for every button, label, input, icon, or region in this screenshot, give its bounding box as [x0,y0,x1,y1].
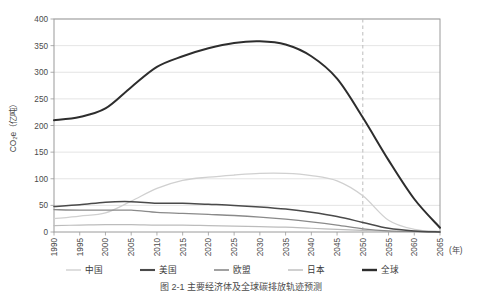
x-tick-label-2040: 2040 [307,238,316,257]
x-tick-label-1990: 1990 [50,238,59,257]
x-tick-label-2065: 2065 [436,238,445,257]
legend-label-2: 欧盟 [233,264,251,275]
legend-label-4: 全球 [381,264,399,275]
x-tick-label-2010: 2010 [153,238,162,257]
y-tick-label-0: 0 [43,228,48,237]
x-tick-label-1995: 1995 [76,238,85,257]
x-tick-label-2045: 2045 [333,238,342,257]
y-tick-label-200: 200 [34,122,48,131]
x-tick-label-2015: 2015 [179,238,188,257]
y-tick-label-150: 150 [34,148,48,157]
legend-label-1: 美国 [159,264,177,275]
y-tick-label-400: 400 [34,15,48,24]
y-tick-label-100: 100 [34,175,48,184]
y-tick-label-50: 50 [39,201,49,210]
x-tick-label-2050: 2050 [359,238,368,257]
x-tick-label-2060: 2060 [410,238,419,257]
x-tick-label-2020: 2020 [204,238,213,257]
x-tick-label-2030: 2030 [256,238,265,257]
y-tick-label-300: 300 [34,68,48,77]
figure-container: 050100150200250300350400 199019952000200… [0,0,483,291]
figure-caption: 图 2-1 主要经济体及全球碳排放轨迹预测 [160,281,322,291]
x-tick-label-2025: 2025 [230,238,239,257]
y-axis-title-text: CO₂e（亿吨） [8,100,18,152]
y-tick-label-350: 350 [34,42,48,51]
y-tick-label-250: 250 [34,95,48,104]
legend-label-3: 日本 [307,264,325,275]
x-tick-label-2055: 2055 [385,238,394,257]
emissions-line-chart: 050100150200250300350400 199019952000200… [0,0,483,291]
x-axis-unit: (年) [449,245,463,255]
x-tick-label-2005: 2005 [127,238,136,257]
x-axis-unit-text: (年) [449,245,463,255]
figure-caption-text: 图 2-1 主要经济体及全球碳排放轨迹预测 [160,281,322,291]
x-tick-label-2000: 2000 [101,238,110,257]
legend-label-0: 中国 [85,264,103,275]
x-tick-label-2035: 2035 [282,238,291,257]
y-axis-title: CO₂e（亿吨） [8,100,18,152]
